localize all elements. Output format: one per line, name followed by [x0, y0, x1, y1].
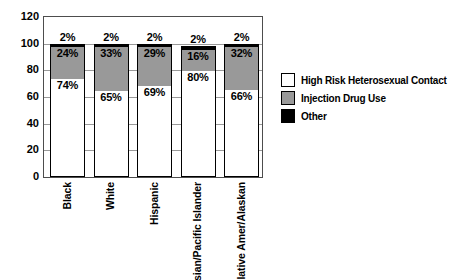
legend-swatch-white	[281, 73, 295, 87]
segment-value-label: 80%	[175, 71, 222, 83]
y-tick-label: 80	[0, 63, 39, 75]
segment-value-label: 65%	[88, 91, 135, 103]
legend-swatch-black	[281, 109, 295, 123]
segment-value-label: 2%	[218, 31, 265, 43]
category-label: lative Amer/Alaskan	[235, 182, 247, 280]
legend-item-injection-drug-use: Injection Drug Use	[281, 91, 447, 105]
plot-area: 74%24%2%65%33%2%69%29%2%80%16%2%66%32%2%	[43, 16, 263, 178]
segment-value-label: 2%	[175, 33, 222, 45]
y-tick-label: 100	[0, 37, 39, 49]
stacked-bar-white	[94, 44, 129, 177]
segment-value-label: 33%	[88, 47, 135, 59]
segment-value-label: 66%	[218, 90, 265, 102]
y-tick-label: 120	[0, 10, 39, 22]
legend-label: Injection Drug Use	[301, 93, 386, 104]
bar-segment	[51, 79, 84, 176]
segment-value-label: 74%	[44, 79, 91, 91]
bar-segment	[225, 90, 258, 176]
segment-value-label: 32%	[218, 47, 265, 59]
legend-swatch-gray	[281, 91, 295, 105]
y-tick-label: 20	[0, 143, 39, 155]
stacked-bar-lative-amer-alaskan	[224, 44, 259, 177]
legend-label: High Risk Heterosexual Contact	[301, 75, 447, 86]
segment-value-label: 2%	[88, 31, 135, 43]
bar-segment	[95, 91, 128, 176]
segment-value-label: 69%	[131, 86, 178, 98]
legend-label: Other	[301, 111, 327, 122]
segment-value-label: 24%	[44, 47, 91, 59]
legend-item-high-risk-heterosexual-contact: High Risk Heterosexual Contact	[281, 73, 447, 87]
category-label: White	[104, 182, 116, 210]
stacked-bar-hispanic	[137, 44, 172, 177]
y-tick-label: 40	[0, 117, 39, 129]
category-label: sian/Pacific Islander	[191, 182, 203, 280]
segment-value-label: 2%	[131, 31, 178, 43]
y-tick-label: 0	[0, 170, 39, 182]
bar-segment	[182, 71, 215, 176]
y-tick-label: 60	[0, 90, 39, 102]
legend-item-other: Other	[281, 109, 447, 123]
segment-value-label: 16%	[175, 50, 222, 62]
legend: High Risk Heterosexual Contact Injection…	[281, 73, 447, 127]
chart-canvas: 74%24%2%65%33%2%69%29%2%80%16%2%66%32%2%…	[0, 0, 449, 280]
stacked-bar-black	[50, 44, 85, 177]
segment-value-label: 2%	[44, 31, 91, 43]
segment-value-label: 29%	[131, 47, 178, 59]
bar-segment	[138, 86, 171, 176]
category-label: Hispanic	[148, 182, 160, 225]
category-label: Black	[61, 182, 73, 210]
stacked-bar-sian-pacific-islander	[181, 46, 216, 177]
